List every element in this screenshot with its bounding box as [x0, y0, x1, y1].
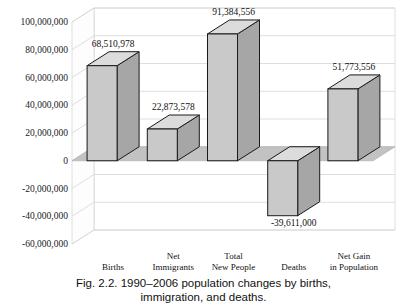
y-axis-tick-label: -60,000,000 — [2, 239, 68, 249]
category-label-line: Total — [189, 251, 279, 262]
caption-line-1: Fig. 2.2. 1990–2006 population changes b… — [76, 277, 331, 289]
bar-value-label: 51,773,556 — [309, 62, 399, 72]
bar-value-label: -39,611,000 — [249, 218, 339, 228]
caption-line-2: immigration, and deaths. — [0, 291, 407, 305]
y-axis-tick-label: 20,000,000 — [2, 128, 68, 138]
bar-value-label: 91,384,556 — [189, 7, 279, 17]
y-axis-tick-label: 40,000,000 — [2, 100, 68, 110]
y-axis-tick-label: 0 — [2, 156, 68, 166]
bar-column — [208, 20, 260, 161]
bar-column — [328, 75, 380, 161]
category-label-line: Net Gain — [309, 251, 399, 262]
y-axis-tick-label: -20,000,000 — [2, 184, 68, 194]
y-axis-tick-label: 80,000,000 — [2, 45, 68, 55]
bar-column — [268, 147, 320, 216]
y-axis-tick-label: 100,000,000 — [2, 17, 68, 27]
y-axis: 100,000,00080,000,00060,000,00040,000,00… — [0, 0, 68, 250]
bar-value-label: 68,510,978 — [68, 39, 158, 49]
category-label-line: in Population — [309, 262, 399, 273]
bar-value-label: 22,873,578 — [128, 102, 218, 112]
figure-caption: Fig. 2.2. 1990–2006 population changes b… — [0, 277, 407, 304]
y-axis-tick-label: -40,000,000 — [2, 211, 68, 221]
population-change-chart: 100,000,00080,000,00060,000,00040,000,00… — [0, 0, 407, 305]
chart-canvas — [68, 0, 407, 250]
x-axis-category-label: Net Gainin Population — [309, 251, 399, 272]
y-axis-tick-label: 60,000,000 — [2, 73, 68, 83]
plot-area — [68, 0, 407, 250]
